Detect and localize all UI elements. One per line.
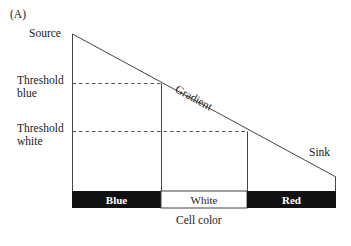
source-label: Source	[29, 27, 61, 40]
panel-letter: (A)	[10, 8, 26, 21]
figure-panel-a: (A) Source Threshold blue Threshold whit…	[0, 0, 351, 246]
threshold-blue-label: Threshold blue	[17, 74, 64, 100]
sink-label: Sink	[309, 146, 330, 159]
cell-color-label-white: White	[161, 193, 247, 208]
cell-color-axis-label: Cell color	[176, 214, 222, 227]
cell-color-label-red: Red	[247, 193, 336, 208]
threshold-white-label: Threshold white	[17, 122, 64, 148]
cell-color-label-blue: Blue	[72, 193, 161, 208]
